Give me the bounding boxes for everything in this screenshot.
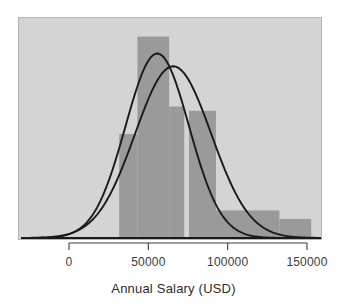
chart-figure: 050000100000150000 Annual Salary (USD)	[0, 0, 347, 308]
x-tick-label: 150000	[286, 255, 327, 269]
x-axis-title: Annual Salary (USD)	[0, 281, 347, 296]
x-tick-label: 50000	[131, 255, 165, 269]
histogram-bar	[137, 37, 169, 238]
plot-panel	[18, 17, 322, 240]
x-tick-label: 100000	[207, 255, 248, 269]
histogram-bars	[119, 37, 311, 238]
histogram-bar	[189, 111, 216, 238]
plot-area-svg	[19, 18, 322, 240]
x-tick-label: 0	[66, 255, 73, 269]
x-axis-ticks	[69, 243, 307, 250]
histogram-bar	[169, 107, 184, 238]
